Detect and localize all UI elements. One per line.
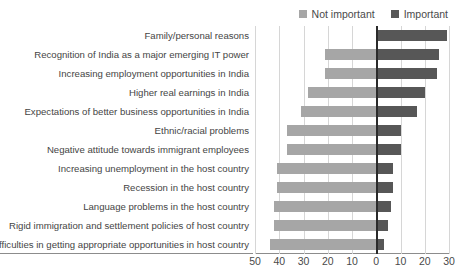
bar-not-important: [277, 182, 376, 193]
category-label: Increasing unemployment in the host coun…: [58, 163, 249, 174]
bar-important: [376, 125, 400, 136]
x-tick-label: 50: [249, 255, 261, 268]
bars-container: [255, 26, 449, 254]
x-tick-label: 40: [273, 255, 285, 268]
category-label: Language problems in the host country: [83, 201, 249, 212]
x-tick-label: 10: [346, 255, 358, 268]
x-tick-label: 10: [395, 255, 407, 268]
bar-important: [376, 144, 400, 155]
gridline: [425, 26, 426, 254]
gridline: [401, 26, 402, 254]
bar-not-important: [287, 125, 377, 136]
category-label: Higher real earnings in India: [129, 87, 249, 98]
legend-label-important: Important: [404, 8, 448, 20]
legend-label-not-important: Not important: [312, 8, 375, 20]
category-label: Negative attitude towards immigrant empl…: [47, 144, 249, 155]
gridline: [449, 26, 450, 254]
gridline: [255, 26, 256, 254]
legend-entry-not-important: Not important: [299, 8, 375, 20]
bar-not-important: [277, 163, 376, 174]
legend-swatch-not-important: [299, 10, 307, 18]
bar-not-important: [270, 239, 377, 250]
bar-important: [376, 163, 393, 174]
category-axis-labels: Family/personal reasonsRecognition of In…: [0, 26, 253, 254]
category-label: Difficulties in getting appropriate oppo…: [0, 239, 249, 250]
bar-not-important: [274, 220, 376, 231]
x-axis-line-left-extension: [0, 253, 253, 254]
x-tick-label: 30: [298, 255, 310, 268]
legend-swatch-important: [391, 10, 399, 18]
legend-entry-important: Important: [391, 8, 448, 20]
bar-important: [376, 106, 417, 117]
bar-not-important: [301, 106, 376, 117]
category-label: Recession in the host country: [123, 182, 249, 193]
x-tick-label: 0: [373, 255, 379, 268]
bar-not-important: [287, 144, 377, 155]
bar-not-important: [325, 49, 376, 60]
x-tick-label: 20: [322, 255, 334, 268]
zero-axis-line: [376, 26, 377, 254]
bar-important: [376, 201, 391, 212]
x-tick-label: 30: [443, 255, 455, 268]
bar-important: [376, 49, 439, 60]
chart-legend: Not important Important: [0, 5, 454, 23]
x-axis-tick-labels: 50403020100102030: [255, 255, 449, 269]
plot-area: Family/personal reasonsRecognition of In…: [0, 26, 454, 254]
bar-not-important: [325, 68, 376, 79]
bar-not-important: [274, 201, 376, 212]
category-label: Family/personal reasons: [144, 30, 249, 41]
bar-important: [376, 182, 393, 193]
category-label: Expectations of better business opportun…: [24, 106, 249, 117]
category-label: Ethnic/racial problems: [155, 125, 249, 136]
category-label: Recognition of India as a major emerging…: [34, 49, 249, 60]
category-label: Increasing employment opportunities in I…: [59, 68, 249, 79]
category-label: Rigid immigration and settlement policie…: [9, 220, 249, 231]
x-tick-label: 20: [419, 255, 431, 268]
bar-important: [376, 30, 446, 41]
bar-not-important: [308, 87, 376, 98]
bar-important: [376, 68, 437, 79]
bar-important: [376, 220, 388, 231]
bar-important: [376, 87, 425, 98]
